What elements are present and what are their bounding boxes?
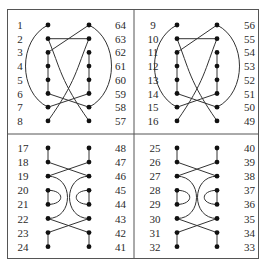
pin-dot: [175, 23, 180, 28]
pin-dot: [87, 77, 92, 82]
pin-dot: [46, 216, 51, 221]
pin-dot: [175, 91, 180, 96]
pin-dot: [215, 146, 220, 151]
panel-bottom-right: 25402639273828372936303531343233: [150, 142, 256, 253]
pin-label-left: 6: [17, 88, 23, 100]
pin-dot: [46, 119, 51, 124]
pin-label-left: 2: [17, 33, 23, 45]
pin-label-right: 60: [115, 74, 127, 86]
pin-label-right: 40: [244, 142, 256, 154]
pin-dot: [46, 77, 51, 82]
pin-label-right: 38: [244, 170, 256, 182]
pin-label-right: 64: [115, 19, 127, 31]
pin-dot: [46, 202, 51, 207]
pin-dot: [46, 244, 51, 249]
small-loop: [76, 190, 89, 204]
pin-label-right: 57: [115, 115, 127, 127]
pin-label-left: 21: [18, 198, 29, 210]
pin-label-left: 10: [148, 33, 160, 45]
panel-bottom-left: 17481847194620452144224323422441: [18, 142, 127, 253]
pin-dot: [46, 64, 51, 69]
pin-dot: [215, 202, 220, 207]
pin-label-right: 47: [115, 156, 127, 168]
pin-label-right: 46: [115, 170, 127, 182]
outer-arc: [26, 25, 49, 107]
pin-dot: [175, 188, 180, 193]
inner-curve: [48, 39, 89, 121]
big-loop: [198, 176, 218, 218]
pin-dot: [215, 216, 220, 221]
pin-label-left: 19: [18, 170, 30, 182]
pin-label-right: 36: [244, 198, 256, 210]
pin-label-left: 1: [17, 19, 23, 31]
big-loop: [70, 176, 90, 218]
pin-dot: [175, 244, 180, 249]
pin-dot: [87, 91, 92, 96]
pin-label-left: 12: [148, 60, 159, 72]
outer-arc: [89, 25, 112, 107]
pin-label-left: 23: [18, 227, 30, 239]
pin-dot: [46, 36, 51, 41]
pin-dot: [215, 174, 220, 179]
pin-label-right: 43: [115, 213, 127, 225]
pin-dot: [87, 216, 92, 221]
pin-label-right: 59: [115, 88, 127, 100]
pin-dot: [215, 160, 220, 165]
panel-top-left: 164263362461560659758857: [17, 19, 126, 127]
pin-label-right: 62: [115, 46, 126, 58]
pin-label-right: 56: [244, 19, 256, 31]
pin-label-left: 9: [150, 19, 156, 31]
pin-label-right: 54: [244, 46, 256, 58]
pin-dot: [46, 188, 51, 193]
inner-curve: [48, 39, 89, 121]
pin-dot: [215, 91, 220, 96]
pin-label-left: 20: [18, 184, 30, 196]
pin-dot: [87, 36, 92, 41]
small-loop: [177, 190, 190, 204]
pin-label-right: 44: [115, 198, 127, 210]
pin-dot: [175, 105, 180, 110]
pin-dot: [175, 160, 180, 165]
pin-label-right: 49: [244, 115, 256, 127]
pin-dot: [215, 188, 220, 193]
pin-label-right: 33: [244, 241, 256, 253]
pin-label-right: 61: [115, 60, 126, 72]
pin-label-right: 42: [115, 227, 126, 239]
big-loop: [48, 176, 68, 218]
pin-label-right: 58: [115, 101, 127, 113]
pin-dot: [87, 202, 92, 207]
inner-curve: [177, 39, 217, 121]
big-loop: [177, 176, 197, 218]
pin-dot: [46, 23, 51, 28]
pin-label-left: 26: [150, 156, 162, 168]
pin-connection-diagram: 1642633624615606597588579561055115412531…: [0, 0, 267, 268]
pin-label-right: 45: [115, 184, 127, 196]
pin-label-left: 22: [18, 213, 29, 225]
pin-label-right: 34: [244, 227, 256, 239]
pin-dot: [87, 146, 92, 151]
pin-dot: [87, 23, 92, 28]
pin-dot: [215, 77, 220, 82]
pin-label-left: 4: [17, 60, 23, 72]
pin-dot: [87, 105, 92, 110]
pin-label-left: 18: [18, 156, 30, 168]
pin-label-left: 30: [150, 213, 162, 225]
small-loop: [204, 190, 217, 204]
pin-dot: [215, 64, 220, 69]
pin-label-right: 35: [244, 213, 256, 225]
pin-label-left: 14: [148, 88, 160, 100]
pin-label-left: 16: [148, 115, 160, 127]
pin-label-left: 17: [18, 142, 30, 154]
pin-dot: [175, 50, 180, 55]
panel-top-right: 9561055115412531352145115501649: [148, 19, 256, 127]
pin-label-left: 31: [150, 227, 161, 239]
pin-label-left: 3: [17, 46, 23, 58]
pin-dot: [87, 244, 92, 249]
pin-label-right: 63: [115, 33, 127, 45]
pin-label-right: 52: [244, 74, 255, 86]
pin-dot: [175, 146, 180, 151]
pin-dot: [87, 119, 92, 124]
pin-label-left: 28: [150, 184, 162, 196]
pin-label-left: 25: [150, 142, 162, 154]
pin-dot: [215, 50, 220, 55]
